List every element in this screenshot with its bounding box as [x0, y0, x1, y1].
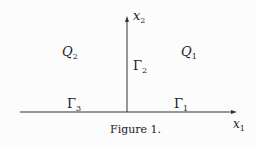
gamma3-symbol: Γ [67, 96, 76, 111]
x1-symbol: x [233, 117, 240, 131]
region-q1-label: Q1 [181, 45, 197, 61]
q2-subscript: 2 [73, 52, 78, 61]
figure-caption: Figure 1. [110, 123, 161, 136]
x2-subscript: 2 [140, 16, 145, 25]
x1-subscript: 1 [240, 124, 245, 133]
region-q2-label: Q2 [62, 45, 78, 61]
q2-symbol: Q [62, 44, 73, 59]
q1-symbol: Q [181, 44, 192, 59]
boundary-gamma1-label: Γ1 [174, 97, 188, 113]
x1-arrowhead-icon [231, 110, 237, 114]
gamma1-subscript: 1 [183, 104, 188, 113]
gamma2-symbol: Γ [133, 58, 142, 73]
gamma1-symbol: Γ [174, 96, 183, 111]
boundary-gamma2-label: Γ2 [133, 59, 147, 75]
figure-1: x2 Q2 Q1 Γ2 Γ3 Γ1 x1 Figure 1. [0, 0, 255, 146]
x1-axis-label: x1 [233, 118, 245, 133]
x2-axis-label: x2 [133, 9, 145, 25]
gamma2-subscript: 2 [142, 66, 147, 75]
gamma3-subscript: 3 [76, 104, 81, 113]
boundary-gamma3-label: Γ3 [67, 97, 81, 113]
q1-subscript: 1 [192, 52, 197, 61]
x2-arrowhead-icon [125, 16, 129, 22]
